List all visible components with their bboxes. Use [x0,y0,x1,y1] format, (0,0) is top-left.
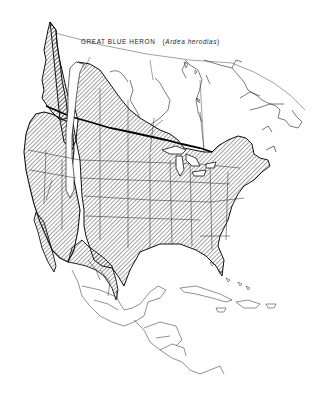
caribbean-islands [180,262,276,312]
common-name: GREAT BLUE HERON [81,38,155,45]
range-map: GREAT BLUE HERON (Ardea herodias) [0,0,321,395]
map-canvas [0,0,321,395]
maritimes-outline [262,126,276,152]
mexico-central-america [72,260,224,374]
close-paren: ) [217,38,220,45]
map-title: GREAT BLUE HERON (Ardea herodias) [81,38,220,45]
scientific-name: Ardea herodias [165,38,217,45]
range-west-coast [42,22,68,120]
